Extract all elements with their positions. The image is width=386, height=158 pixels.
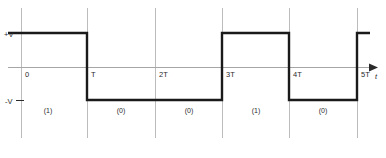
axis-label-time: t <box>375 72 378 81</box>
bit-label-4: (0) <box>319 107 328 115</box>
bit-label-0: (1) <box>44 107 53 115</box>
tick-label-3t: 3T <box>226 70 235 79</box>
gridlines <box>22 8 358 138</box>
tick-label-4t: 4T <box>293 70 302 79</box>
zero-axis <box>8 64 378 72</box>
figure-caption <box>0 146 386 158</box>
waveform-svg: +V -V 0 T 2T 3T 4T 5T t (1) (0) (0) (1) … <box>0 0 386 158</box>
tick-label-2t: 2T <box>159 70 168 79</box>
waveform-figure: +V -V 0 T 2T 3T 4T 5T t (1) (0) (0) (1) … <box>0 0 386 158</box>
bit-label-3: (1) <box>252 107 261 115</box>
bit-label-2: (0) <box>185 107 194 115</box>
tick-label-5t: 5T <box>361 70 370 79</box>
waveform-trace <box>8 33 370 100</box>
tick-label-0: 0 <box>25 70 29 79</box>
time-arrow-head <box>369 64 378 72</box>
bit-label-1: (0) <box>117 107 126 115</box>
level-label-minus-v: -V <box>5 97 13 106</box>
level-label-plus-v: +V <box>4 30 13 39</box>
tick-label-t: T <box>91 70 96 79</box>
